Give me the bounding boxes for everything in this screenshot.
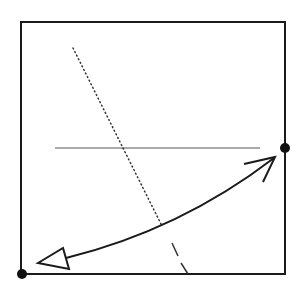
bottom-left-dot xyxy=(17,269,27,279)
right-edge-dot xyxy=(280,143,290,153)
dash-segment xyxy=(172,243,178,256)
dotted-oblique-line xyxy=(73,48,162,226)
dash-segment xyxy=(181,263,188,274)
diagram-svg xyxy=(0,0,307,290)
curved-double-arrow-shaft xyxy=(66,158,274,258)
diagram-canvas xyxy=(0,0,307,290)
hollow-triangle-arrowhead-icon xyxy=(38,248,69,269)
dashed-oblique-extension xyxy=(172,243,188,274)
